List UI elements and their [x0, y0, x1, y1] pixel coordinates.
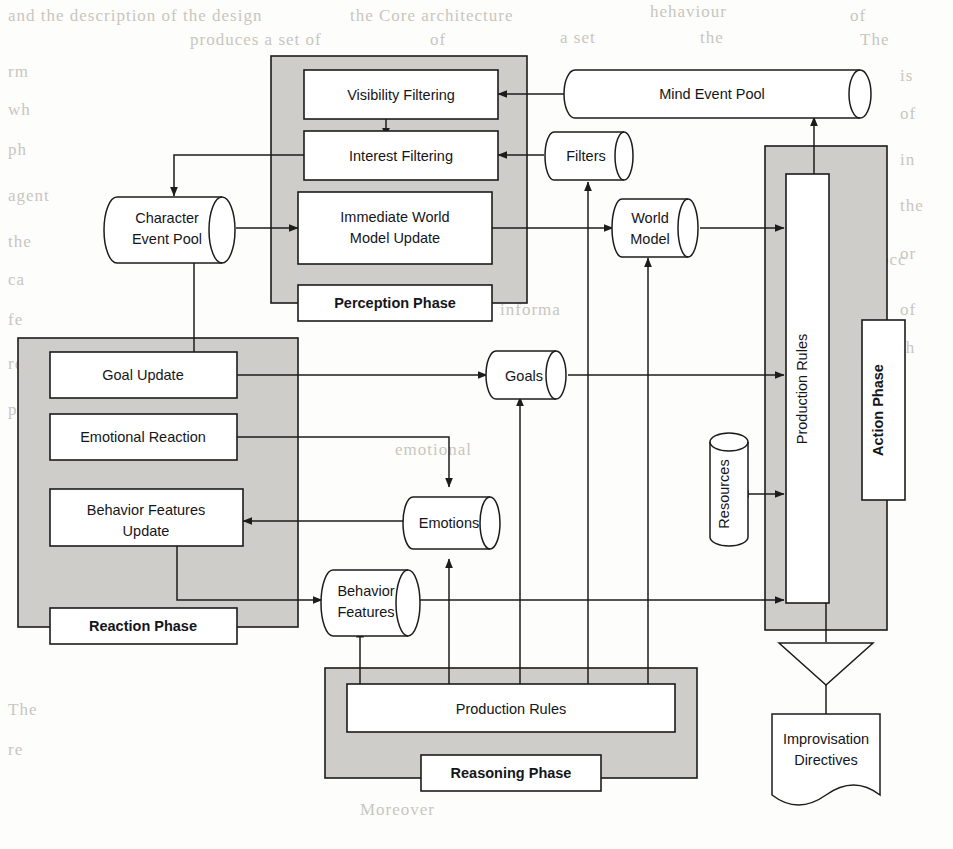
process-immediate-world-model-update-label-line1: Immediate World [340, 209, 449, 225]
store-character-event-pool-label-line2: Event Pool [132, 231, 202, 247]
process-interest-filtering-label: Interest Filtering [349, 148, 453, 164]
process-immediate-world-model-update[interactable]: Immediate World Model Update [298, 192, 492, 264]
reaction-phase-label-text: Reaction Phase [89, 618, 197, 634]
process-emotional-reaction[interactable]: Emotional Reaction [50, 414, 237, 460]
store-behavior-features-label-line1: Behavior [337, 583, 394, 599]
perception-phase-label-text: Perception Phase [334, 295, 456, 311]
store-behavior-features[interactable]: Behavior Features [321, 570, 420, 636]
store-world-model-label-line1: World [631, 210, 669, 226]
perception-phase-label: Perception Phase [298, 285, 492, 321]
output-improvisation-directives-label-line2: Directives [794, 752, 858, 768]
reasoning-phase-label-text: Reasoning Phase [451, 765, 572, 781]
process-production-rules-reasoning-label: Production Rules [456, 701, 566, 717]
store-resources[interactable]: Resources [710, 433, 748, 546]
store-behavior-features-label-line2: Features [337, 604, 394, 620]
process-behavior-features-update[interactable]: Behavior Features Update [50, 489, 243, 546]
process-goal-update-label: Goal Update [102, 367, 183, 383]
process-interest-filtering[interactable]: Interest Filtering [304, 131, 498, 180]
output-improvisation-directives-label-line1: Improvisation [783, 731, 869, 747]
process-production-rules-action-label: Production Rules [794, 334, 810, 444]
action-phase-label: Action Phase [862, 320, 905, 500]
process-behavior-features-update-label-line2: Update [123, 523, 170, 539]
process-production-rules-reasoning[interactable]: Production Rules [347, 684, 675, 732]
store-goals-label: Goals [505, 368, 543, 384]
process-visibility-filtering[interactable]: Visibility Filtering [304, 70, 498, 119]
store-world-model[interactable]: World Model [612, 199, 698, 257]
process-emotional-reaction-label: Emotional Reaction [80, 429, 206, 445]
store-mind-event-pool[interactable]: Mind Event Pool [564, 70, 871, 118]
action-phase-label-text: Action Phase [870, 364, 886, 456]
architecture-diagram: Visibility Filtering Interest Filtering … [0, 0, 953, 849]
output-triangle-icon [779, 643, 873, 685]
store-emotions[interactable]: Emotions [403, 497, 500, 549]
process-immediate-world-model-update-label-line2: Model Update [350, 230, 440, 246]
process-production-rules-action[interactable]: Production Rules [786, 174, 829, 603]
store-character-event-pool[interactable]: Character Event Pool [104, 197, 235, 263]
process-visibility-filtering-label: Visibility Filtering [347, 87, 455, 103]
store-character-event-pool-label-line1: Character [135, 210, 199, 226]
store-resources-label: Resources [716, 459, 732, 528]
store-filters-label: Filters [566, 148, 605, 164]
store-goals[interactable]: Goals [486, 351, 566, 399]
output-improvisation-directives[interactable]: Improvisation Directives [772, 714, 880, 805]
reaction-phase-label: Reaction Phase [50, 608, 237, 644]
diagram-canvas: and the description of the designthe Cor… [0, 0, 953, 849]
reasoning-phase-label: Reasoning Phase [421, 755, 601, 791]
store-filters[interactable]: Filters [545, 132, 633, 180]
store-mind-event-pool-label: Mind Event Pool [659, 86, 765, 102]
process-behavior-features-update-label-line1: Behavior Features [87, 502, 205, 518]
process-goal-update[interactable]: Goal Update [50, 352, 237, 398]
store-world-model-label-line2: Model [630, 231, 670, 247]
store-emotions-label: Emotions [419, 515, 479, 531]
